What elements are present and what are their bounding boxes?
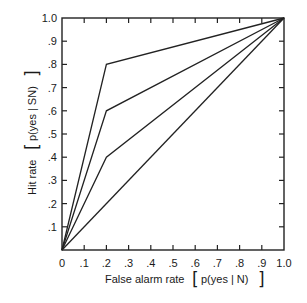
y-tick-label: .9 [48, 35, 57, 47]
x-axis-label-text: False alarm rate [105, 273, 184, 285]
x-right-bracket: ] [258, 269, 265, 289]
x-tick-label: 1.0 [276, 257, 291, 269]
x-axis-ticks: 0.1.2.3.4.5.6.7.8.91.0 [59, 18, 292, 269]
y-axis-label-text: Hit rate [26, 160, 38, 195]
x-tick-label: .5 [168, 257, 177, 269]
y-tick-label: .6 [48, 105, 57, 117]
y-tick-label: .8 [48, 58, 57, 70]
y-axis-label-math: p(yes | SN) [26, 86, 38, 141]
y-tick-label: .4 [48, 151, 57, 163]
y-left-bracket: [ [22, 143, 42, 150]
x-left-bracket: [ [192, 269, 199, 289]
x-tick-label: .1 [80, 257, 89, 269]
y-tick-label: .2 [48, 198, 57, 210]
y-tick-label: .5 [48, 128, 57, 140]
x-tick-label: .6 [191, 257, 200, 269]
series-line-chance-diagonal [62, 18, 284, 250]
roc-chart: 0.1.2.3.4.5.6.7.8.91.0 .1.2.3.4.5.6.7.8.… [0, 0, 307, 303]
x-tick-label: .7 [213, 257, 222, 269]
x-tick-label: .9 [257, 257, 266, 269]
x-axis-label-math: p(yes | N) [201, 273, 248, 285]
x-tick-label: 0 [59, 257, 65, 269]
x-tick-label: .8 [235, 257, 244, 269]
y-tick-label: .7 [48, 82, 57, 94]
y-tick-label: 1.0 [42, 12, 57, 24]
y-tick-label: .3 [48, 174, 57, 186]
x-tick-label: .3 [124, 257, 133, 269]
x-tick-label: .2 [102, 257, 111, 269]
x-tick-label: .4 [146, 257, 155, 269]
y-tick-label: .1 [48, 221, 57, 233]
x-axis-label: False alarm rate [ p(yes | N) ] [105, 269, 265, 289]
y-axis-label: Hit rate [ p(yes | SN) ] [22, 70, 42, 195]
y-right-bracket: ] [22, 70, 42, 77]
data-series [62, 18, 284, 250]
